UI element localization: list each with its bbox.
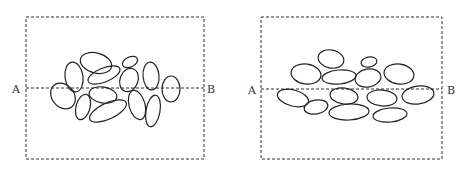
label-b-left: B bbox=[207, 83, 215, 96]
diagram-canvas: A B A B bbox=[0, 0, 462, 175]
sample-boundary-right bbox=[261, 17, 442, 159]
label-a-left: A bbox=[11, 83, 21, 96]
panel-left-random: A B bbox=[11, 17, 215, 159]
grains-left bbox=[46, 49, 180, 128]
label-b-right: B bbox=[447, 84, 455, 97]
label-a-right: A bbox=[247, 84, 257, 97]
panel-right-oriented: A B bbox=[247, 17, 455, 159]
grains-right bbox=[275, 47, 435, 123]
